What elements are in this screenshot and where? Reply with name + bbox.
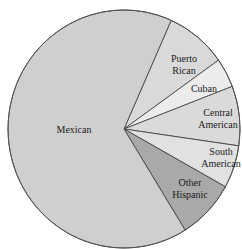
slice-label-mexican: Mexican	[57, 124, 92, 135]
pie-chart: PuertoRicanCubanCentralAmericanSouthAmer…	[0, 0, 242, 249]
slice-label-central-american: CentralAmerican	[198, 107, 237, 130]
slice-label-cuban: Cuban	[191, 83, 217, 94]
slice-label-puerto-rican: PuertoRican	[171, 53, 197, 76]
